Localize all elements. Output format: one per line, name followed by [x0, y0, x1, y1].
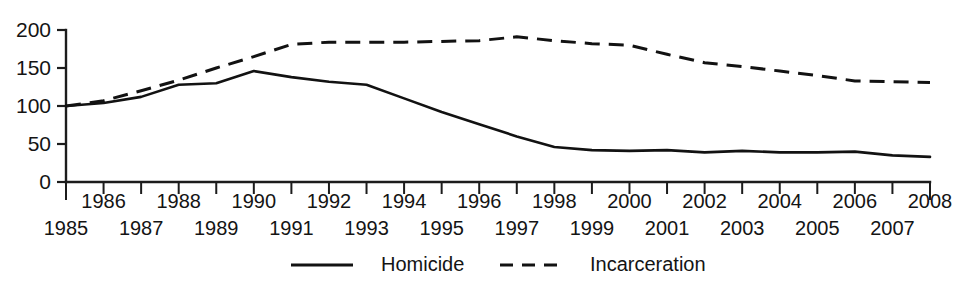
- x-axis-tick-label-lower: 1987: [119, 217, 164, 239]
- line-chart: 050100150200 198619881990199219941996199…: [0, 0, 967, 295]
- x-axis-tick-label-lower: 2003: [720, 217, 765, 239]
- x-axis-tick-label-upper: 1986: [81, 190, 126, 212]
- x-axis-tick-label-lower: 1999: [570, 217, 615, 239]
- x-axis-tick-label-lower: 2005: [795, 217, 840, 239]
- x-axis-tick-label-lower: 1993: [344, 217, 389, 239]
- y-axis-tick-label: 150: [16, 56, 51, 79]
- x-axis-tick-label-lower: 1997: [495, 217, 540, 239]
- x-axis-tick-label-upper: 2004: [757, 190, 802, 212]
- x-axis-tick-label-lower: 1991: [269, 217, 314, 239]
- x-axis-tick-label-lower: 1989: [194, 217, 239, 239]
- y-axis-tick-label: 50: [28, 132, 51, 155]
- chart-container: 050100150200 198619881990199219941996199…: [0, 0, 967, 295]
- series-line-incarceration: [66, 37, 930, 106]
- x-axis-tick-label-lower: 1995: [419, 217, 464, 239]
- x-axis-tick-label-upper: 2006: [833, 190, 878, 212]
- legend-label-incarceration: Incarceration: [590, 253, 706, 275]
- x-axis-tick-label-lower: 2007: [870, 217, 915, 239]
- chart-legend: HomicideIncarceration: [291, 253, 706, 275]
- x-axis-tick-label-upper: 2000: [607, 190, 652, 212]
- x-axis-tick-label-upper: 1990: [232, 190, 277, 212]
- series-line-homicide: [66, 71, 930, 157]
- x-axis-tick-label-upper: 1988: [156, 190, 201, 212]
- legend-label-homicide: Homicide: [381, 253, 464, 275]
- y-axis-tick-label: 100: [16, 94, 51, 117]
- y-axis: 050100150200: [16, 18, 66, 193]
- x-axis-tick-label-lower: 1985: [44, 217, 89, 239]
- x-axis-tick-label-lower: 2001: [645, 217, 690, 239]
- series-lines: [66, 37, 930, 157]
- x-axis-tick-label-upper: 2002: [682, 190, 727, 212]
- x-axis-tick-label-upper: 2008: [908, 190, 953, 212]
- y-axis-tick-label: 200: [16, 18, 51, 41]
- x-axis-tick-label-upper: 1996: [457, 190, 502, 212]
- x-axis-tick-labels: 1986198819901992199419961998200020022004…: [44, 190, 953, 239]
- y-axis-tick-label: 0: [39, 170, 51, 193]
- x-axis-tick-label-upper: 1994: [382, 190, 427, 212]
- x-axis-tick-label-upper: 1998: [532, 190, 577, 212]
- x-axis-tick-label-upper: 1992: [307, 190, 352, 212]
